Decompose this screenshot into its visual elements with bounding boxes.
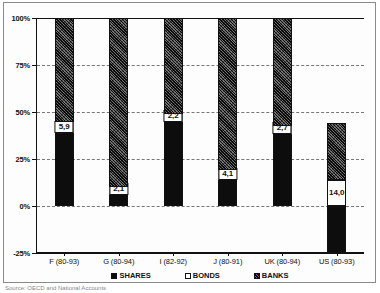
bar-segment-banks[interactable] bbox=[55, 18, 74, 122]
y-axis-tick bbox=[32, 206, 37, 207]
bar-value-label: 14,0 bbox=[329, 189, 345, 197]
y-axis-tick bbox=[32, 65, 37, 66]
y-axis-label-75: 75% bbox=[16, 61, 30, 70]
chart-page: 100%75%50%25%0%-25%5,9F (80-93)2,1G (80-… bbox=[0, 0, 380, 293]
gridline-25 bbox=[37, 159, 364, 160]
chart-legend: SHARESBONDSBANKS bbox=[36, 271, 364, 280]
bar-segment-shares[interactable] bbox=[164, 118, 183, 206]
bar-segment-banks[interactable] bbox=[327, 123, 346, 179]
legend-item-shares[interactable]: SHARES bbox=[111, 271, 150, 280]
x-axis-label: G (80-94) bbox=[103, 257, 134, 266]
bar-segment-shares[interactable] bbox=[273, 131, 292, 206]
x-axis-label: I (82-92) bbox=[160, 257, 187, 266]
plot-area: 100%75%50%25%0%-25%5,9F (80-93)2,1G (80-… bbox=[36, 18, 364, 253]
x-axis-tick bbox=[173, 252, 174, 256]
gridline-75 bbox=[37, 65, 364, 66]
bar-segment-shares[interactable] bbox=[55, 133, 74, 206]
y-axis-tick bbox=[32, 112, 37, 113]
x-axis-tick bbox=[64, 252, 65, 256]
shares-swatch-icon bbox=[111, 273, 117, 279]
gridline--25 bbox=[37, 253, 364, 254]
y-axis-label-50: 50% bbox=[16, 108, 30, 117]
banks-swatch-icon bbox=[254, 273, 260, 279]
legend-label: BANKS bbox=[262, 271, 289, 280]
x-axis-tick bbox=[228, 252, 229, 256]
bar-segment-banks[interactable] bbox=[218, 18, 237, 170]
gridline-50 bbox=[37, 112, 364, 113]
legend-label: BONDS bbox=[193, 271, 220, 280]
bar-group[interactable]: 4,1J (80-91) bbox=[218, 18, 237, 252]
bar-segment-shares[interactable] bbox=[327, 206, 346, 253]
y-axis-label-100: 100% bbox=[12, 14, 30, 23]
bar-segment-banks[interactable] bbox=[164, 18, 183, 114]
bar-segment-banks[interactable] bbox=[109, 18, 128, 187]
gridline-0 bbox=[37, 206, 364, 207]
x-axis-label: UK (80-94) bbox=[264, 257, 300, 266]
x-axis-tick bbox=[337, 252, 338, 256]
bar-segment-shares[interactable] bbox=[218, 178, 237, 206]
bar-group[interactable]: 2,1G (80-94) bbox=[109, 18, 128, 252]
y-axis-tick bbox=[32, 253, 37, 254]
bar-group[interactable]: 2,7UK (80-94) bbox=[273, 18, 292, 252]
x-axis-tick bbox=[282, 252, 283, 256]
bar-group[interactable]: 14,0US (80-93) bbox=[327, 18, 346, 252]
y-axis-tick bbox=[32, 18, 37, 19]
bonds-swatch-icon bbox=[185, 273, 191, 279]
x-axis-tick bbox=[119, 252, 120, 256]
x-axis-label: J (80-91) bbox=[213, 257, 242, 266]
legend-label: SHARES bbox=[119, 271, 150, 280]
x-axis-label: F (80-93) bbox=[49, 257, 79, 266]
bar-value-label: 5,9 bbox=[55, 121, 74, 133]
x-axis-label: US (80-93) bbox=[319, 257, 355, 266]
y-axis-tick bbox=[32, 159, 37, 160]
source-note: Source: OECD and National Accounts bbox=[5, 285, 106, 291]
y-axis-label-0: 0% bbox=[20, 202, 30, 211]
bar-group[interactable]: 2,2I (82-92) bbox=[164, 18, 183, 252]
bar-segment-banks[interactable] bbox=[273, 18, 292, 126]
y-axis-label--25: -25% bbox=[13, 249, 30, 258]
legend-item-banks[interactable]: BANKS bbox=[254, 271, 289, 280]
legend-item-bonds[interactable]: BONDS bbox=[185, 271, 220, 280]
bar-group[interactable]: 5,9F (80-93) bbox=[55, 18, 74, 252]
gridline-100 bbox=[37, 18, 364, 19]
y-axis-label-25: 25% bbox=[16, 155, 30, 164]
